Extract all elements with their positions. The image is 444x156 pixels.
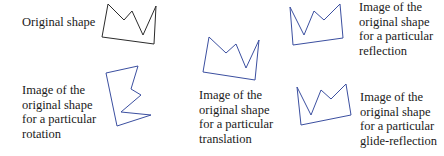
label-line: glide-reflection [360, 134, 437, 149]
label-line: reflection [359, 44, 433, 59]
label-line: for a particular [360, 119, 437, 134]
reflected-shape [290, 4, 343, 45]
original-shape [102, 4, 156, 44]
label-line: Image of the [199, 88, 273, 103]
glide-reflected-shape [297, 84, 351, 125]
label-line: original shape [359, 15, 433, 30]
label-original-shape: Original shape [22, 15, 95, 30]
label-line: translation [199, 132, 273, 147]
label-line: for a particular [22, 112, 96, 127]
label-translation: Image of the original shape for a partic… [199, 88, 273, 146]
rotated-shape [106, 66, 151, 126]
label-rotation: Image of the original shape for a partic… [22, 83, 96, 141]
label-line: Image of the [22, 83, 96, 98]
label-line: Image of the [360, 90, 437, 105]
label-line: Image of the [359, 0, 433, 15]
label-line: original shape [22, 98, 96, 113]
label-reflection: Image of the original shape for a partic… [359, 0, 433, 58]
label-line: rotation [22, 127, 96, 142]
translated-shape [203, 37, 259, 80]
label-line: for a particular [199, 117, 273, 132]
label-line: original shape [360, 105, 437, 120]
label-line: original shape [199, 103, 273, 118]
label-glide-reflection: Image of the original shape for a partic… [360, 90, 437, 148]
label-line: for a particular [359, 29, 433, 44]
